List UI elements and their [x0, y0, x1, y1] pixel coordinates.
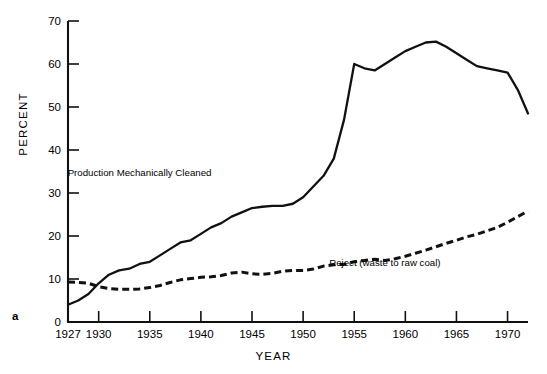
y-axis-tick-label: 60: [48, 58, 61, 70]
x-axis-tick-label: 1930: [86, 328, 112, 340]
x-axis-tick-label: 1950: [290, 328, 316, 340]
y-axis-tick-label: 0: [55, 316, 61, 328]
y-axis-tick-label: 20: [48, 230, 61, 242]
x-axis-title: YEAR: [0, 350, 547, 362]
y-axis-tick-label: 50: [48, 101, 61, 113]
x-axis-tick-label: 1955: [341, 328, 367, 340]
panel-letter: a: [12, 310, 18, 322]
y-axis-title: PERCENT: [17, 79, 29, 169]
y-axis-tick-label: 30: [48, 187, 61, 199]
series-annotation-label: Reject (waste to raw coal): [329, 257, 440, 268]
figure-panel: 0102030405060701927193019351940194519501…: [0, 0, 547, 374]
x-axis-tick-label: 1970: [495, 328, 521, 340]
x-axis-tick-label: 1935: [137, 328, 163, 340]
y-axis-tick-label: 70: [48, 15, 61, 27]
y-axis-tick-label: 10: [48, 273, 61, 285]
chart-canvas: 0102030405060701927193019351940194519501…: [0, 0, 547, 374]
series-annotation-label: Production Mechanically Cleaned: [68, 167, 212, 178]
x-axis-tick-label: 1927: [55, 328, 81, 340]
x-axis-tick-label: 1940: [188, 328, 214, 340]
series-line: [68, 211, 528, 289]
x-axis-tick-label: 1945: [239, 328, 265, 340]
y-axis-tick-label: 40: [48, 144, 61, 156]
x-axis-tick-label: 1965: [444, 328, 470, 340]
x-axis-tick-label: 1960: [393, 328, 419, 340]
